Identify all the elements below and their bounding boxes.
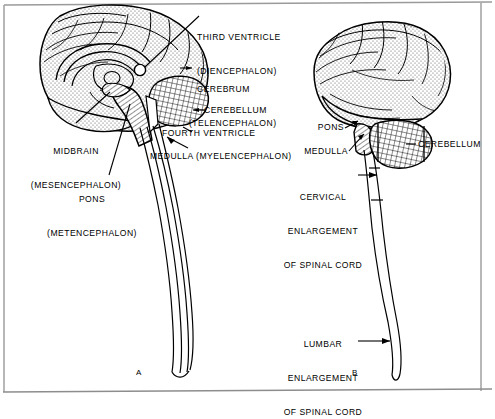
label-third-ventricle-a-line1: THIRD VENTRICLE (197, 32, 281, 43)
conus-medullaris-b (392, 374, 400, 380)
arrow-lumbar-b (382, 338, 390, 344)
label-fourth-ventricle-a: FOURTH VENTRICLE (162, 128, 255, 139)
label-lumbar-b-line1: LUMBAR (288, 339, 358, 350)
label-lumbar-enlargement-b: LUMBAR ENLARGEMENT OF SPINAL CORD (288, 317, 358, 419)
panel-id-a: A (136, 368, 142, 377)
third-ventricle-marker-a (134, 64, 145, 75)
label-pons-a: PONS (METENCEPHALON) (30, 172, 154, 250)
label-cervical-b-line3: OF SPINAL CORD (278, 260, 368, 271)
label-medulla-a: MEDULLA (MYELENCEPHALON) (150, 151, 292, 162)
label-medulla-b: MEDULLA (278, 146, 348, 157)
label-pons-a-line1: PONS (30, 194, 154, 205)
label-cervical-b-line1: CERVICAL (288, 192, 358, 203)
panel-id-b: B (352, 368, 358, 377)
label-cervical-enlargement-b: CERVICAL ENLARGEMENT OF SPINAL CORD (288, 170, 358, 282)
label-cervical-b-line2: ENLARGEMENT (278, 226, 368, 237)
label-lumbar-b-line3: OF SPINAL CORD (278, 407, 368, 418)
label-cerebellum-a: CEREBELLUM (204, 105, 267, 116)
label-pons-b: PONS (288, 122, 344, 133)
label-cerebellum-b: CEREBELLUM (418, 139, 481, 150)
label-cerebrum-a-line1: CEREBRUM (197, 84, 276, 95)
label-midbrain-a-line1: MIDBRAIN (8, 146, 144, 157)
label-pons-a-line2: (METENCEPHALON) (30, 228, 154, 239)
